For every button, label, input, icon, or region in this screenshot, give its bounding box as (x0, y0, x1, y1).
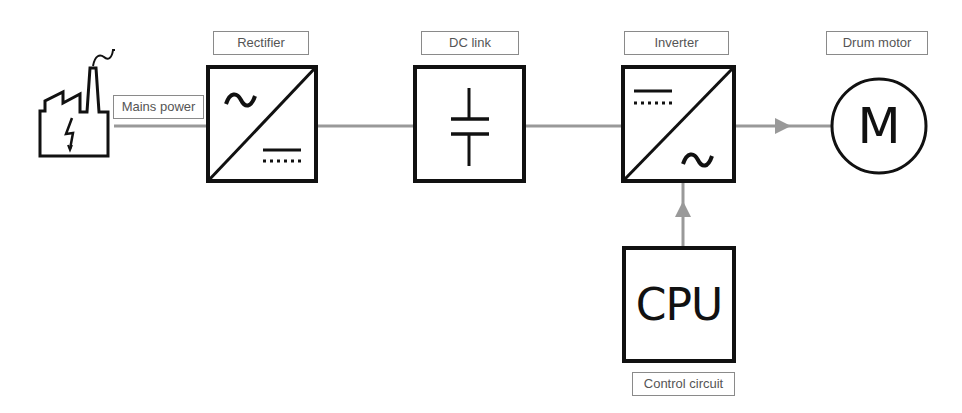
inverter-block (623, 67, 734, 181)
ac-wave-icon (226, 94, 255, 105)
rectifier-label: Rectifier (213, 31, 309, 55)
rectifier-block (208, 67, 316, 181)
cpu-label: CPU (622, 246, 736, 363)
arrow-right-icon (775, 118, 791, 134)
arrow-up-icon (675, 201, 691, 217)
mains-power-label: Mains power (113, 95, 204, 119)
capacitor-icon (451, 88, 489, 166)
ac-wave-icon (683, 154, 712, 165)
factory-icon (40, 50, 115, 156)
inverter-label: Inverter (624, 31, 729, 55)
diagram-canvas (0, 0, 962, 413)
motor-symbol: M (831, 78, 927, 174)
control-circuit-label: Control circuit (632, 372, 735, 396)
connectors (114, 126, 831, 246)
dc-link-block (415, 67, 524, 181)
drum-motor-label: Drum motor (826, 31, 928, 55)
dc-link-label: DC link (421, 31, 519, 55)
